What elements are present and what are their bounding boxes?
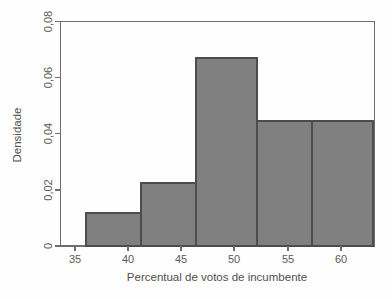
x-axis-tick-labels: 35 40 45 50 55 60 [69,253,347,265]
histogram-bar [257,121,312,246]
x-tick-label: 45 [175,253,187,265]
histogram-bar [141,183,196,246]
x-tick-label: 50 [228,253,240,265]
histogram-bars [86,58,373,246]
histogram-bar [86,213,141,246]
y-tick-label: 0,06 [42,67,54,88]
y-tick-label: 0,04 [42,123,54,144]
histogram-bar [312,121,373,246]
x-tick-label: 60 [335,253,347,265]
histogram-bar [196,58,257,246]
y-axis-ticks [55,22,60,247]
density-histogram: 0,08 0,06 0,04 0,02 0 35 40 45 50 55 60 … [0,0,392,299]
y-tick-label: 0 [42,243,54,249]
histogram-figure: 0,08 0,06 0,04 0,02 0 35 40 45 50 55 60 … [0,0,392,299]
y-tick-label: 0,02 [42,179,54,200]
x-tick-label: 40 [122,253,134,265]
y-axis-tick-labels: 0,08 0,06 0,04 0,02 0 [42,11,54,249]
y-axis-title: Densidade [11,108,23,163]
x-tick-label: 35 [69,253,81,265]
x-tick-label: 55 [282,253,294,265]
x-axis-ticks [75,246,341,251]
y-tick-label: 0,08 [42,11,54,32]
x-axis-title: Percentual de votos de incumbente [127,271,307,283]
